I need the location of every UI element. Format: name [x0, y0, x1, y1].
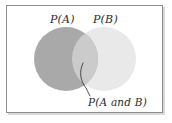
label-probability-a-and-b: P(A and B)	[88, 96, 147, 108]
label-probability-b: P(B)	[93, 14, 118, 26]
label-probability-a: P(A)	[50, 14, 75, 26]
venn-diagram-figure: P(A) P(B) P(A and B)	[0, 0, 172, 123]
